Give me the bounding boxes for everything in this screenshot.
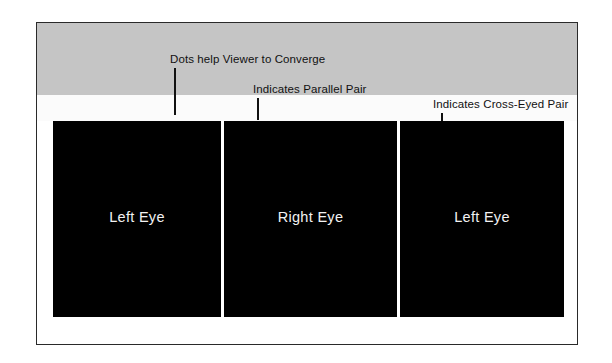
leader-line-parallel [257, 98, 259, 120]
panel-label: Left Eye [454, 209, 510, 225]
callout-indicates-cross-eyed-pair: Indicates Cross-Eyed Pair [433, 98, 568, 111]
panel-right-eye: Right Eye [224, 121, 397, 317]
diagram-frame: Dots help Viewer to Converge Indicates P… [36, 22, 578, 345]
leader-line-dots [174, 68, 176, 115]
stereo-image-row: Left Eye Right Eye Left Eye [37, 121, 577, 319]
panel-left-eye-first: Left Eye [53, 121, 221, 317]
callout-indicates-parallel-pair: Indicates Parallel Pair [253, 83, 367, 96]
panel-left-eye-second: Left Eye [400, 121, 564, 317]
panel-label: Right Eye [278, 209, 344, 225]
stereogram-pair-diagram: Dots help Viewer to Converge Indicates P… [0, 0, 612, 363]
callout-dots-help-viewer: Dots help Viewer to Converge [170, 53, 325, 66]
panel-label: Left Eye [109, 209, 165, 225]
